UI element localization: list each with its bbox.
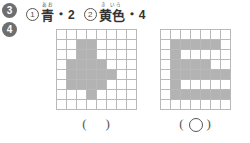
grid-cell-empty[interactable]: [191, 80, 201, 90]
grid-cell-empty[interactable]: [77, 90, 87, 100]
grid-cell-filled[interactable]: [87, 50, 97, 60]
grid-cell-empty[interactable]: [171, 100, 181, 110]
grid-cell-filled[interactable]: [67, 60, 77, 70]
grid-cell-filled[interactable]: [77, 40, 87, 50]
grid-cell-empty[interactable]: [107, 30, 117, 40]
grid-cell-empty[interactable]: [97, 40, 107, 50]
grid-cell-empty[interactable]: [107, 80, 117, 90]
grid-cell-filled[interactable]: [171, 80, 181, 90]
grid-cell-filled[interactable]: [171, 70, 181, 80]
grid-cell-filled[interactable]: [87, 90, 97, 100]
grid-cell-empty[interactable]: [117, 30, 127, 40]
grid-cell-empty[interactable]: [127, 50, 137, 60]
grid-cell-empty[interactable]: [211, 50, 221, 60]
grid-cell-empty[interactable]: [77, 30, 87, 40]
grid-cell-filled[interactable]: [87, 60, 97, 70]
grid-cell-filled[interactable]: [107, 70, 117, 80]
grid-cell-filled[interactable]: [191, 60, 201, 70]
grid-cell-filled[interactable]: [171, 50, 181, 60]
grid-cell-empty[interactable]: [161, 100, 171, 110]
grid-cell-filled[interactable]: [67, 80, 77, 90]
grid-cell-empty[interactable]: [57, 50, 67, 60]
grid-cell-empty[interactable]: [161, 40, 171, 50]
grid-cell-empty[interactable]: [161, 60, 171, 70]
grid-cell-filled[interactable]: [221, 70, 231, 80]
grid-cell-filled[interactable]: [77, 70, 87, 80]
grid-cell-empty[interactable]: [57, 100, 67, 110]
grid-cell-empty[interactable]: [127, 90, 137, 100]
grid-cell-empty[interactable]: [77, 100, 87, 110]
grid-cell-filled[interactable]: [97, 60, 107, 70]
grid-cell-filled[interactable]: [191, 40, 201, 50]
grid-cell-filled[interactable]: [97, 80, 107, 90]
grid-cell-empty[interactable]: [57, 40, 67, 50]
grid-cell-filled[interactable]: [97, 70, 107, 80]
grid-cell-empty[interactable]: [67, 100, 77, 110]
grid-left[interactable]: [56, 29, 137, 110]
grid-cell-empty[interactable]: [117, 100, 127, 110]
grid-cell-empty[interactable]: [97, 100, 107, 110]
grid-cell-empty[interactable]: [161, 30, 171, 40]
grid-cell-empty[interactable]: [107, 50, 117, 60]
grid-cell-empty[interactable]: [211, 60, 221, 70]
grid-cell-filled[interactable]: [201, 60, 211, 70]
grid-cell-empty[interactable]: [67, 90, 77, 100]
answer-parentheses[interactable]: (): [160, 115, 231, 133]
grid-cell-empty[interactable]: [221, 100, 231, 110]
grid-cell-empty[interactable]: [161, 70, 171, 80]
grid-cell-empty[interactable]: [117, 80, 127, 90]
grid-cell-empty[interactable]: [161, 50, 171, 60]
grid-cell-empty[interactable]: [107, 100, 117, 110]
grid-cell-filled[interactable]: [181, 40, 191, 50]
answer-parentheses[interactable]: (): [56, 115, 137, 133]
grid-cell-filled[interactable]: [77, 50, 87, 60]
grid-cell-empty[interactable]: [87, 100, 97, 110]
grid-cell-filled[interactable]: [191, 90, 201, 100]
grid-cell-filled[interactable]: [181, 60, 191, 70]
grid-cell-empty[interactable]: [97, 90, 107, 100]
grid-cell-filled[interactable]: [171, 40, 181, 50]
grid-cell-empty[interactable]: [57, 70, 67, 80]
grid-cell-filled[interactable]: [201, 40, 211, 50]
grid-cell-empty[interactable]: [191, 50, 201, 60]
grid-cell-empty[interactable]: [221, 80, 231, 90]
grid-cell-empty[interactable]: [201, 80, 211, 90]
grid-cell-empty[interactable]: [87, 30, 97, 40]
grid-cell-empty[interactable]: [117, 50, 127, 60]
grid-cell-empty[interactable]: [57, 60, 67, 70]
grid-cell-empty[interactable]: [221, 50, 231, 60]
grid-cell-filled[interactable]: [191, 70, 201, 80]
grid-cell-empty[interactable]: [171, 30, 181, 40]
grid-cell-empty[interactable]: [67, 30, 77, 40]
grid-cell-empty[interactable]: [221, 40, 231, 50]
grid-cell-empty[interactable]: [117, 60, 127, 70]
grid-cell-empty[interactable]: [127, 60, 137, 70]
grid-cell-empty[interactable]: [181, 30, 191, 40]
grid-cell-filled[interactable]: [77, 60, 87, 70]
grid-cell-filled[interactable]: [221, 90, 231, 100]
grid-cell-empty[interactable]: [117, 40, 127, 50]
grid-cell-filled[interactable]: [87, 70, 97, 80]
grid-cell-empty[interactable]: [107, 90, 117, 100]
grid-cell-empty[interactable]: [117, 90, 127, 100]
grid-cell-empty[interactable]: [127, 40, 137, 50]
grid-cell-empty[interactable]: [57, 90, 67, 100]
grid-cell-empty[interactable]: [211, 80, 221, 90]
grid-cell-empty[interactable]: [161, 90, 171, 100]
grid-cell-filled[interactable]: [211, 40, 221, 50]
grid-cell-empty[interactable]: [181, 80, 191, 90]
grid-right[interactable]: [160, 29, 231, 110]
grid-cell-empty[interactable]: [211, 100, 221, 110]
grid-cell-filled[interactable]: [87, 80, 97, 90]
grid-cell-empty[interactable]: [97, 30, 107, 40]
grid-cell-empty[interactable]: [161, 80, 171, 90]
grid-cell-empty[interactable]: [57, 30, 67, 40]
grid-cell-empty[interactable]: [57, 80, 67, 90]
grid-cell-empty[interactable]: [211, 30, 221, 40]
grid-cell-filled[interactable]: [181, 90, 191, 100]
grid-cell-filled[interactable]: [181, 70, 191, 80]
grid-cell-empty[interactable]: [97, 50, 107, 60]
grid-cell-empty[interactable]: [117, 70, 127, 80]
grid-cell-empty[interactable]: [181, 100, 191, 110]
grid-cell-empty[interactable]: [201, 30, 211, 40]
